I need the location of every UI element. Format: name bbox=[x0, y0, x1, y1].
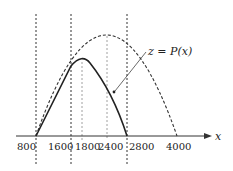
tick-4000: 4000 bbox=[166, 141, 191, 152]
diagram-canvas: x z = P(x) 800 1600 1800 2400 2800 4000 bbox=[0, 0, 233, 171]
tick-2800: 2800 bbox=[129, 141, 154, 152]
label-pointer bbox=[115, 52, 146, 91]
tick-800: 800 bbox=[17, 141, 36, 152]
tick-1600: 1600 bbox=[48, 141, 73, 152]
pointer-dot-icon bbox=[113, 91, 116, 94]
tick-1800: 1800 bbox=[75, 141, 100, 152]
x-axis-arrow-icon bbox=[204, 133, 212, 139]
solid-curve-P bbox=[36, 59, 127, 136]
x-axis-label: x bbox=[215, 130, 222, 143]
curve-label: z = P(x) bbox=[147, 45, 192, 58]
tick-2400: 2400 bbox=[98, 141, 123, 152]
